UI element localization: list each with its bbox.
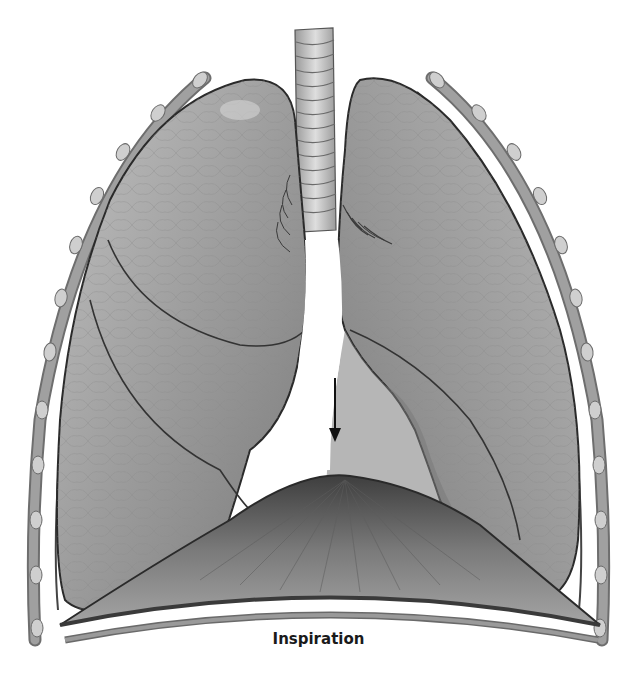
figure-caption: Inspiration [0,630,637,648]
lung-diagram [0,0,637,678]
